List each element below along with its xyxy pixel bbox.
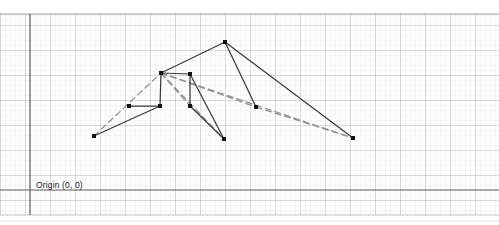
node-mid-lower [188, 104, 192, 108]
diagram-stage: Origin (0, 0) [0, 0, 499, 225]
node-left-terminal [92, 134, 96, 138]
node-right-mid [254, 105, 258, 109]
node-right-terminal [351, 136, 355, 140]
origin-label: Origin (0, 0) [36, 181, 83, 190]
node-mid-upper [188, 72, 192, 76]
grid-diagram-canvas [0, 0, 499, 225]
node-apex [223, 40, 227, 44]
node-left-low-a [127, 104, 131, 108]
node-left-low-b [158, 104, 162, 108]
node-mid-terminal [222, 137, 226, 141]
node-branch-hub [159, 71, 163, 75]
